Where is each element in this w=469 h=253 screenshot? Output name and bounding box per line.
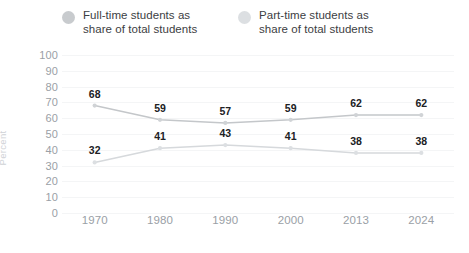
series-line (95, 145, 422, 162)
x-axis-tick-label: 2024 (408, 214, 434, 226)
data-point-marker[interactable] (419, 113, 423, 117)
data-point-label: 32 (89, 144, 101, 156)
data-point-marker[interactable] (223, 121, 227, 125)
data-point-label: 62 (350, 97, 362, 109)
plot-area: Percent 1009080706050403020100 685957596… (0, 44, 469, 253)
data-point-label: 41 (154, 130, 166, 142)
x-axis-tick-label: 1970 (82, 214, 108, 226)
data-point-marker[interactable] (223, 143, 227, 147)
data-point-marker[interactable] (289, 118, 293, 122)
data-point-marker[interactable] (354, 151, 358, 155)
data-point-marker[interactable] (289, 146, 293, 150)
legend-item-part-time[interactable]: Part-time students as share of total stu… (238, 8, 373, 36)
series-part-time (93, 143, 424, 165)
series-line (95, 106, 422, 123)
data-point-label: 57 (219, 105, 231, 117)
data-point-marker[interactable] (158, 118, 162, 122)
x-axis-tick-label: 1980 (147, 214, 173, 226)
legend-marker-icon (62, 11, 75, 24)
line-chart: Full-time students as share of total stu… (0, 0, 469, 253)
legend-item-label: Full-time students as share of total stu… (83, 8, 197, 36)
data-point-label: 59 (285, 102, 297, 114)
data-point-marker[interactable] (158, 146, 162, 150)
x-axis-tick-label: 2000 (278, 214, 304, 226)
data-point-marker[interactable] (419, 151, 423, 155)
data-point-marker[interactable] (93, 103, 97, 107)
data-point-label: 59 (154, 102, 166, 114)
series-full-time (93, 103, 424, 125)
data-point-label: 43 (219, 127, 231, 139)
x-axis-tick-label: 1990 (212, 214, 238, 226)
data-point-label: 62 (415, 97, 427, 109)
data-point-marker[interactable] (93, 160, 97, 164)
data-point-marker[interactable] (354, 113, 358, 117)
data-point-label: 38 (350, 135, 362, 147)
data-point-label: 68 (89, 88, 101, 100)
legend-marker-icon (238, 11, 251, 24)
chart-legend: Full-time students as share of total stu… (0, 0, 469, 44)
x-axis-tick-labels: 197019801990200020132024 (0, 214, 469, 244)
legend-item-label: Part-time students as share of total stu… (259, 8, 373, 36)
data-point-label: 38 (415, 135, 427, 147)
legend-item-full-time[interactable]: Full-time students as share of total stu… (62, 8, 197, 36)
x-axis-tick-label: 2013 (343, 214, 369, 226)
data-point-label: 41 (285, 130, 297, 142)
